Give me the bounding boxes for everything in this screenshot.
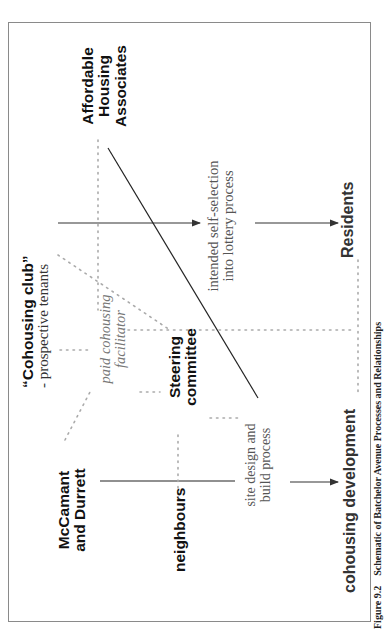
node-label-line: committee [183,322,199,412]
node-neighbours: neighbours [172,488,188,572]
node-label-line: Steering [167,322,183,412]
node-label-line: intended self-selection [206,146,221,306]
node-label-line: McCamant [56,454,72,566]
node-title: “Cohousing club” [20,148,36,388]
node-steering-committee: Steering committee [167,322,200,412]
node-label-line: into lottery process [221,146,236,306]
node-affordable-housing-associates: Affordable Housing Associates [80,30,129,142]
node-label-line: and Durrett [72,454,88,566]
caption-number: Figure 9.2 [372,586,383,629]
node-cohousing-club: “Cohousing club” - prospective tenants [20,148,52,388]
node-paid-facilitator: paid cohousing facilitator [98,280,128,398]
node-label-line: Associates [113,30,129,142]
caption-text: Schematic of Batchelor Avenue Processes … [372,322,383,576]
node-residents: Residents [340,182,357,258]
node-label-line: Housing [96,30,112,142]
node-cohousing-development: cohousing development [342,409,359,593]
dotted-mccamant-to-facilitator [65,392,90,440]
node-label: neighbours [171,488,188,572]
node-label: Residents [339,182,356,258]
node-label-line: build process [259,410,274,520]
node-label-line: Affordable [80,30,96,142]
node-label-line: facilitator [113,280,128,398]
node-label-line: paid cohousing [98,280,113,398]
figure-caption: Figure 9.2 Schematic of Batchelor Avenue… [373,322,384,629]
node-site-design: site design and build process [244,410,273,520]
node-self-selection: intended self-selection into lottery pro… [206,146,236,306]
node-label-line: site design and [244,410,259,520]
node-subtitle: - prospective tenants [36,148,52,388]
node-label: cohousing development [341,409,358,593]
node-mccamant-durrett: McCamant and Durrett [56,454,89,566]
